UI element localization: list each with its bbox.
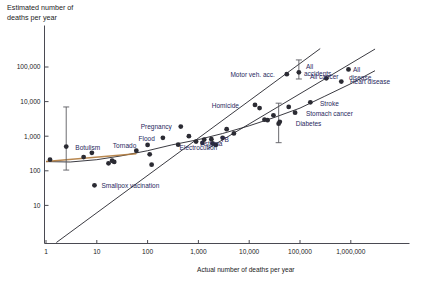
- point-label: Smallpox vacination: [102, 182, 160, 190]
- data-point: [308, 100, 313, 105]
- data-point: [232, 131, 237, 136]
- y-tick-label: 10,000: [20, 98, 41, 105]
- point-label: Electrocution: [180, 144, 218, 151]
- data-point: [178, 124, 183, 129]
- data-point: [64, 144, 69, 149]
- data-point: [224, 127, 229, 132]
- plot-canvas: 1101001,00010,000100,0001,000,000 101001…: [0, 0, 426, 286]
- x-tick-group: 1101001,00010,000100,0001,000,000: [44, 240, 366, 255]
- data-point: [346, 67, 351, 72]
- point-label: Diabetes: [296, 120, 322, 127]
- point-label: Stomach cancer: [306, 110, 354, 117]
- point-label: Stroke: [320, 100, 339, 107]
- x-tick-label: 100,000: [288, 248, 312, 255]
- point-label: Tornado: [113, 142, 137, 149]
- y-tick-label: 1,000: [24, 133, 41, 140]
- x-tick-label: 100: [142, 248, 153, 255]
- data-point: [145, 143, 150, 148]
- data-point: [110, 158, 115, 163]
- point-label: Flood: [139, 135, 156, 142]
- x-tick-label: 1,000: [190, 248, 207, 255]
- data-point: [296, 70, 301, 75]
- data-point: [265, 118, 270, 123]
- data-point: [89, 150, 94, 155]
- data-point: [339, 79, 344, 84]
- data-point: [160, 135, 165, 140]
- x-tick-label: 10: [93, 248, 101, 255]
- data-point: [134, 148, 139, 153]
- data-point: [92, 183, 97, 188]
- data-points-group: [48, 67, 351, 188]
- data-point: [253, 103, 258, 108]
- data-point: [276, 121, 281, 126]
- point-label: Homicide: [212, 102, 239, 109]
- point-label: Motor veh. acc.: [230, 71, 275, 78]
- data-point: [286, 105, 291, 110]
- point-label: All cancer: [310, 73, 339, 80]
- data-point: [187, 134, 192, 139]
- y-tick-label: 100: [29, 167, 40, 174]
- y-tick-group: 101001,00010,000100,000: [17, 63, 49, 208]
- point-label: Botulism: [75, 144, 100, 151]
- data-point: [149, 162, 154, 167]
- x-tick-label: 1: [44, 248, 48, 255]
- x-tick-label: 1,000,000: [336, 248, 366, 255]
- y-tick-label: 10: [33, 202, 41, 209]
- point-label: Heart disease: [350, 78, 390, 85]
- data-point: [293, 110, 298, 115]
- y-tick-label: 100,000: [17, 63, 41, 70]
- data-point: [147, 152, 152, 157]
- data-point: [81, 155, 86, 160]
- x-tick-label: 10,000: [239, 248, 260, 255]
- data-point: [284, 72, 289, 77]
- point-label: Pregnancy: [141, 123, 173, 131]
- risk-perception-scatter-figure: Estimated number of deaths per year Actu…: [0, 0, 426, 286]
- data-point: [257, 106, 262, 111]
- data-point: [48, 157, 53, 162]
- data-point: [271, 113, 276, 118]
